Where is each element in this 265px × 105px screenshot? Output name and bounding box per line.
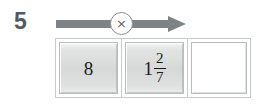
number-boxes-row: 8 1 2 7 (55, 38, 251, 98)
fraction: 2 7 (154, 51, 166, 85)
operand-2-box: 1 2 7 (121, 38, 187, 98)
operation-arrow: × (56, 12, 188, 36)
operand-1-surface: 8 (59, 42, 118, 94)
arrow-head-icon (168, 16, 186, 32)
mixed-whole-part: 1 (144, 59, 155, 78)
problem-number: 5 (14, 8, 38, 34)
answer-box[interactable] (187, 38, 251, 98)
operand-1-box: 8 (55, 38, 121, 98)
fraction-numerator: 2 (154, 51, 166, 66)
math-problem: 5 × 8 1 2 7 (0, 0, 265, 105)
multiply-icon: × (116, 17, 127, 30)
multiply-operator-badge: × (110, 12, 133, 35)
operand-2-value: 1 2 7 (144, 51, 166, 85)
fraction-denominator: 7 (154, 70, 166, 85)
operand-2-surface: 1 2 7 (125, 42, 184, 94)
operand-1-value: 8 (84, 59, 94, 78)
answer-input[interactable] (191, 42, 247, 94)
